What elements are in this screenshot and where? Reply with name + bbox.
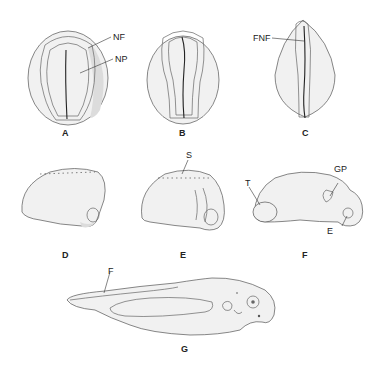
label-t: T (245, 178, 251, 188)
label-e: E (327, 226, 333, 236)
label-gp: GP (334, 164, 347, 174)
panel-a-embryo (28, 31, 113, 125)
embryo-development-figure: NF NP A B FNF C D S E (0, 0, 375, 367)
stage-label-a: A (62, 128, 69, 138)
label-s: S (186, 150, 192, 160)
panel-d-embryo (22, 169, 105, 228)
stage-label-f: F (302, 250, 308, 260)
stage-label-c: C (302, 128, 309, 138)
label-nf: NF (113, 32, 125, 42)
label-np: NP (115, 54, 128, 64)
stage-label-e: E (180, 250, 186, 260)
stage-label-g: G (181, 344, 188, 354)
panel-g-tadpole (67, 272, 275, 335)
panel-f-embryo (249, 172, 363, 226)
panel-b-embryo (147, 31, 219, 124)
label-fnf: FNF (253, 33, 271, 43)
label-f: F (108, 266, 114, 276)
stage-label-b: B (179, 128, 186, 138)
stage-label-d: D (62, 250, 69, 260)
panel-c-embryo (272, 20, 335, 118)
panel-e-embryo (141, 160, 224, 230)
